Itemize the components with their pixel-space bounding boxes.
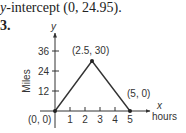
x-axis-label: hours — [152, 111, 177, 122]
svg-text:1: 1 — [67, 114, 73, 125]
svg-text:5: 5 — [127, 114, 133, 125]
data-point — [128, 109, 132, 113]
svg-text:12: 12 — [38, 86, 50, 97]
svg-text:24: 24 — [38, 66, 50, 77]
y-ticks: 36 24 12 — [38, 46, 59, 97]
svg-text:4: 4 — [112, 114, 118, 125]
data-point — [90, 59, 94, 63]
x-ticks: 1 2 3 4 5 — [67, 107, 133, 125]
x-axis-var: x — [156, 100, 163, 111]
point-label: (5, 0) — [127, 88, 150, 99]
y-axis-var: y — [50, 21, 57, 32]
y-axis-label: Miles — [21, 69, 32, 92]
svg-text:36: 36 — [38, 46, 50, 57]
svg-text:3: 3 — [97, 114, 103, 125]
data-point — [53, 109, 57, 113]
svg-text:2: 2 — [82, 114, 88, 125]
chart: y x hours Miles 36 24 12 1 2 3 4 5 (0, 0… — [0, 0, 186, 133]
point-label: (2.5, 30) — [72, 45, 109, 56]
data-line — [55, 61, 130, 111]
point-label: (0, 0) — [28, 114, 51, 125]
